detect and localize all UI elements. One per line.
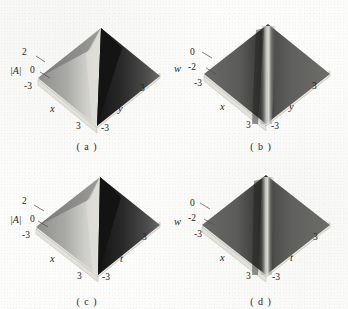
x-tick-b-min: -3 xyxy=(194,79,202,89)
panel-caption-c: ( c ) xyxy=(0,296,174,307)
x-axis-label-a: x xyxy=(50,104,55,115)
panel-a: 2 |A| 0 -3 x 3 3 y -3 ( a ) xyxy=(0,0,174,154)
z-axis-label-d: w xyxy=(174,217,181,228)
y-axis-label-b: y xyxy=(289,102,294,113)
surface-plot-b: 0 w -2 -3 x 3 3 y -3 xyxy=(174,0,348,140)
figure-canvas: 2 |A| 0 -3 x 3 3 y -3 ( a ) xyxy=(0,0,348,309)
t-tick-c-max: 3 xyxy=(142,233,147,243)
x-tick-c-max: 3 xyxy=(77,272,82,282)
z-tick-d-upper: 0 xyxy=(190,199,195,209)
z-tick-a-lower: 0 xyxy=(30,66,35,76)
z-axis-label-b: w xyxy=(174,64,181,75)
t-tick-c-min: -3 xyxy=(102,273,110,283)
y-tick-b-max: 3 xyxy=(312,82,317,92)
panel-d: 0 w -2 -3 x 3 3 t -3 ( d ) xyxy=(174,155,348,309)
z-tick-b-upper: 0 xyxy=(190,48,195,58)
z-tick-d-lower: -2 xyxy=(188,214,196,224)
y-tick-b-min: -3 xyxy=(271,122,279,132)
panel-caption-a: ( a ) xyxy=(0,141,174,152)
x-tick-c-min: -3 xyxy=(22,231,30,241)
z-tick-b-lower: -2 xyxy=(188,63,196,73)
axis-tick-leader-c-top xyxy=(34,205,44,211)
axis-tick-leader-a-top xyxy=(36,56,45,62)
x-axis-label-b: x xyxy=(220,102,225,113)
panel-caption-c-text: ( c ) xyxy=(76,296,97,307)
t-tick-d-min: -3 xyxy=(272,273,280,283)
panel-c: 2 |A| 0 -3 x 3 3 t -3 ( c ) xyxy=(0,155,174,309)
x-tick-d-max: 3 xyxy=(246,272,251,282)
t-tick-d-max: 3 xyxy=(313,233,318,243)
panel-caption-a-text: ( a ) xyxy=(76,141,97,152)
panel-b: 0 w -2 -3 x 3 3 y -3 ( b ) xyxy=(174,0,348,154)
x-tick-a-max: 3 xyxy=(76,122,81,132)
x-axis-label-d: x xyxy=(220,253,225,264)
axis-tick-leader-d-top xyxy=(200,203,210,209)
surface-b-right-slope xyxy=(266,24,330,124)
y-axis-label-a: y xyxy=(118,104,123,115)
z-tick-a-upper: 2 xyxy=(22,48,27,58)
surface-plot-a: 2 |A| 0 -3 x 3 3 y -3 xyxy=(0,0,174,140)
x-tick-d-min: -3 xyxy=(194,230,202,240)
axis-tick-leader-b-top xyxy=(202,52,212,58)
z-tick-c-upper: 2 xyxy=(22,197,27,207)
t-axis-label-c: t xyxy=(120,254,123,265)
t-axis-label-d: t xyxy=(290,253,293,264)
panel-caption-d-text: ( d ) xyxy=(250,296,272,307)
y-tick-a-min: -3 xyxy=(101,124,109,134)
panel-caption-b-text: ( b ) xyxy=(250,141,272,152)
panel-caption-d: ( d ) xyxy=(174,296,348,307)
panel-caption-b: ( b ) xyxy=(174,141,348,152)
surface-plot-d: 0 w -2 -3 x 3 3 t -3 xyxy=(174,155,348,295)
surface-d-right-slope xyxy=(266,175,330,275)
x-tick-b-max: 3 xyxy=(246,121,251,131)
z-axis-label-a: |A| xyxy=(10,66,22,76)
x-tick-a-min: -3 xyxy=(24,82,32,92)
z-axis-label-c: |A| xyxy=(10,215,22,225)
y-tick-a-max: 3 xyxy=(140,84,145,94)
surface-plot-c: 2 |A| 0 -3 x 3 3 t -3 xyxy=(0,155,174,295)
surface-d-bright-band xyxy=(260,177,274,275)
x-axis-label-c: x xyxy=(50,254,55,265)
z-tick-c-lower: 0 xyxy=(30,215,35,225)
